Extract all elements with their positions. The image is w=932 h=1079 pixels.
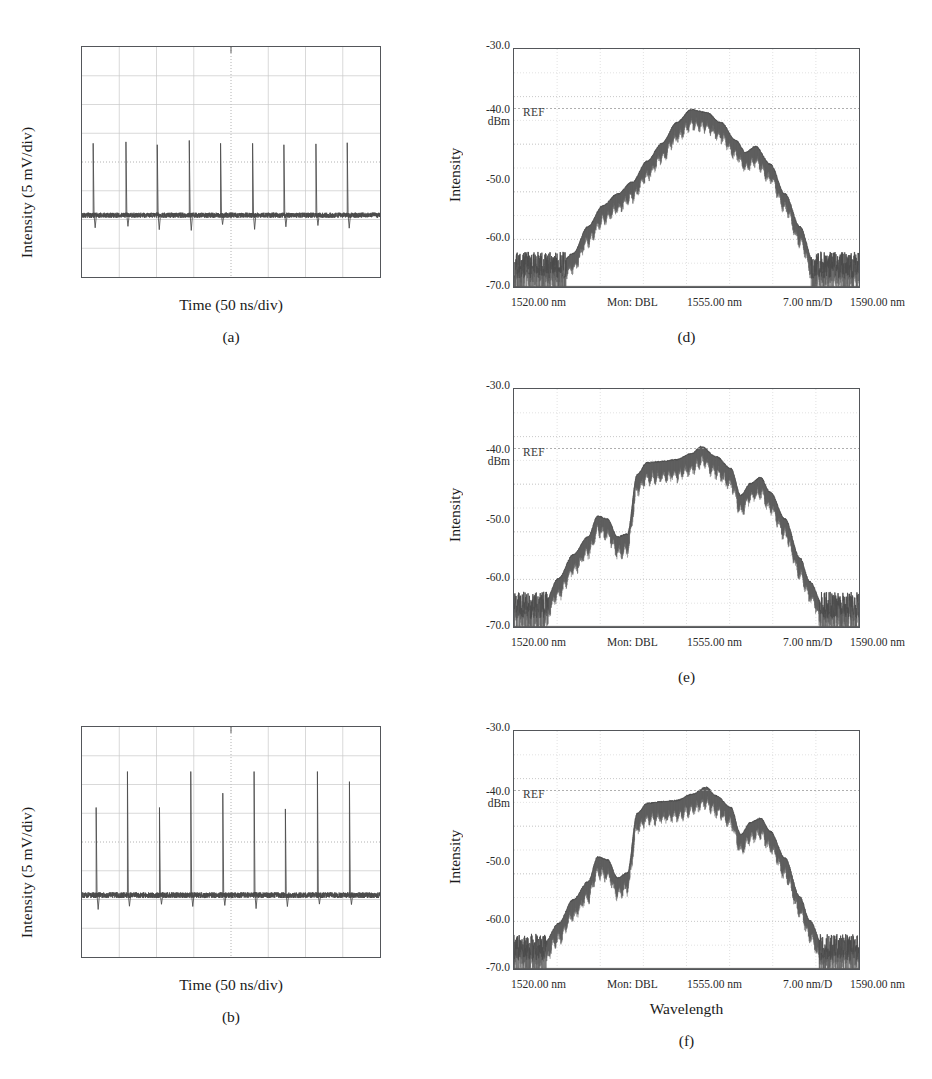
panel-a-plot xyxy=(81,46,381,278)
panel-e-caption: (e) xyxy=(513,668,860,686)
panel-d-xtick-1: Mon: DBL xyxy=(607,296,658,308)
panel-f-xlabel: Wavelength xyxy=(513,1000,860,1018)
panel-d-plot xyxy=(513,48,860,288)
panel-b-xlabel: Time (50 ns/div) xyxy=(81,976,381,994)
panel-d-ytick-4: -70.0 xyxy=(440,280,510,292)
panel-a-xlabel: Time (50 ns/div) xyxy=(81,296,381,314)
panel-d-ytick-0: -30.0 xyxy=(440,40,510,52)
panel-b-caption: (b) xyxy=(81,1008,381,1026)
panel-f-xtick-0: 1520.00 nm xyxy=(511,978,566,990)
panel-f-ytick-3: -60.0 xyxy=(440,914,510,926)
panel-e-ref-label: REF xyxy=(523,446,545,458)
panel-d-xtick-4: 1590.00 nm xyxy=(850,296,905,308)
panel-f-xtick-1: Mon: DBL xyxy=(607,978,658,990)
panel-f-ref-label: REF xyxy=(523,788,545,800)
spectrum-trace xyxy=(514,731,859,969)
panel-e-ytick-4: -70.0 xyxy=(440,620,510,632)
panel-f-ytick-2: -50.0 xyxy=(440,856,510,868)
panel-f-ytick-4: -70.0 xyxy=(440,962,510,974)
panel-f-caption: (f) xyxy=(513,1032,860,1050)
panel-e: Intensity -30.0 -40.0dBm -50.0 -60.0 -70… xyxy=(440,370,932,710)
panel-e-ytick-1: -40.0dBm xyxy=(440,444,510,467)
panel-b: Intensity (5 mV/div) Time (50 ns/div) (b… xyxy=(0,710,420,1050)
panel-f-ytick-0: -30.0 xyxy=(440,722,510,734)
panel-d-xtick-2: 1555.00 nm xyxy=(687,296,742,308)
panel-e-ytick-2: -50.0 xyxy=(440,514,510,526)
panel-f-xtick-4: 1590.00 nm xyxy=(850,978,905,990)
panel-f: Intensity -30.0 -40.0dBm -50.0 -60.0 -70… xyxy=(440,712,932,1072)
panel-b-ylabel: Intensity (5 mV/div) xyxy=(18,756,36,988)
panel-e-xtick-0: 1520.00 nm xyxy=(511,636,566,648)
panel-a-caption: (a) xyxy=(81,328,381,346)
panel-d-xtick-3: 7.00 nm/D xyxy=(783,296,832,308)
panel-f-xtick-3: 7.00 nm/D xyxy=(783,978,832,990)
figure-root: Intensity (5 mV/div) Time (50 ns/div) (a… xyxy=(0,0,932,1079)
panel-a-ylabel: Intensity (5 mV/div) xyxy=(18,76,36,308)
panel-f-xtick-2: 1555.00 nm xyxy=(687,978,742,990)
panel-d-ytick-1: -40.0dBm xyxy=(440,104,510,127)
scope-trace xyxy=(82,727,380,957)
spectrum-trace xyxy=(514,49,859,287)
scope-trace xyxy=(82,47,380,277)
panel-d-ytick-3: -60.0 xyxy=(440,232,510,244)
panel-a: Intensity (5 mV/div) Time (50 ns/div) (a… xyxy=(0,30,420,370)
panel-f-plot xyxy=(513,730,860,970)
panel-d-ytick-2: -50.0 xyxy=(440,174,510,186)
panel-d-caption: (d) xyxy=(513,328,860,346)
panel-e-xtick-2: 1555.00 nm xyxy=(687,636,742,648)
panel-d: Intensity -30.0 -40.0dBm -50.0 -60.0 -70… xyxy=(440,30,932,370)
panel-e-xtick-3: 7.00 nm/D xyxy=(783,636,832,648)
spectrum-trace xyxy=(514,389,859,627)
panel-d-xtick-0: 1520.00 nm xyxy=(511,296,566,308)
panel-d-ref-label: REF xyxy=(523,106,545,118)
panel-e-ytick-3: -60.0 xyxy=(440,572,510,584)
panel-f-ytick-1: -40.0dBm xyxy=(440,786,510,809)
panel-e-ytick-0: -30.0 xyxy=(440,380,510,392)
panel-e-plot xyxy=(513,388,860,628)
panel-e-xtick-4: 1590.00 nm xyxy=(850,636,905,648)
panel-e-xtick-1: Mon: DBL xyxy=(607,636,658,648)
panel-b-plot xyxy=(81,726,381,958)
